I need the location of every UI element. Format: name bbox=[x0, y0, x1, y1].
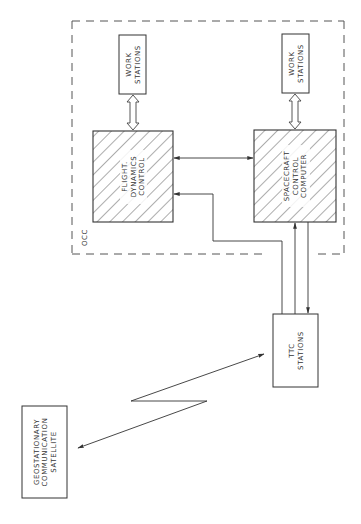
flight-dynamics-control-node[interactable]: FLIGHT. DYNAMICS CONTROL bbox=[93, 131, 173, 222]
diagram-svg: OCC WORK STATIONS WORK STATIONS FLIGHT. … bbox=[0, 0, 361, 524]
spacecraft-control-computer-node[interactable]: SPACECRAFT CONTROL COMPUTER bbox=[254, 130, 336, 222]
satellite-line-1: GEOSTATIONARY bbox=[33, 419, 41, 485]
fdc-line-2: DYNAMICS bbox=[130, 156, 138, 198]
geostationary-satellite-node[interactable]: GEOSTATIONARY COMMUNICATION SATELLITE bbox=[22, 406, 67, 498]
scc-line-2: CONTROL bbox=[292, 157, 300, 195]
ttc-stations-node[interactable]: TTC STATIONS bbox=[273, 314, 318, 387]
work-stations-left-line-1: WORK bbox=[125, 52, 133, 76]
work-stations-right-node[interactable]: WORK STATIONS bbox=[282, 34, 309, 93]
work-stations-left-node[interactable]: WORK STATIONS bbox=[119, 35, 146, 94]
fdc-line-1: FLIGHT. bbox=[121, 161, 129, 192]
fdc-line-3: CONTROL bbox=[138, 157, 146, 195]
scc-line-3: COMPUTER bbox=[300, 154, 308, 198]
work-stations-left-line-2: STATIONS bbox=[134, 45, 142, 84]
occ-label: OCC bbox=[81, 229, 89, 246]
satellite-line-3: SATELLITE bbox=[50, 431, 58, 472]
satellite-line-2: COMMUNICATION bbox=[41, 418, 49, 487]
radio-link bbox=[78, 354, 264, 448]
diagram-canvas: OCC WORK STATIONS WORK STATIONS FLIGHT. … bbox=[0, 0, 361, 524]
hollow-double-arrow-left bbox=[127, 95, 139, 130]
hollow-double-arrow-right bbox=[289, 94, 301, 129]
work-stations-right-line-1: WORK bbox=[288, 51, 296, 75]
ttc-line-1: TTC bbox=[288, 343, 296, 359]
ttc-line-2: STATIONS bbox=[297, 331, 305, 370]
scc-line-1: SPACECRAFT bbox=[283, 151, 291, 202]
work-stations-right-line-2: STATIONS bbox=[297, 44, 305, 83]
